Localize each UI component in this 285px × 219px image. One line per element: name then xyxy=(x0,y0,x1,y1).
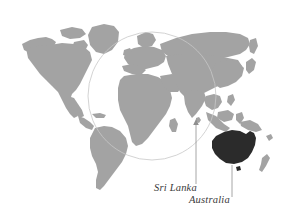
world-map-graphic xyxy=(0,0,285,219)
landmass-south-america xyxy=(90,126,128,190)
landmass-greenland xyxy=(88,24,119,54)
landmass-group xyxy=(22,24,273,190)
callout-label-sri-lanka: Sri Lanka xyxy=(154,182,197,193)
landmass-caribbean xyxy=(92,113,106,118)
landmass-philippines xyxy=(227,94,235,106)
landmass-australia-highlighted xyxy=(212,130,256,164)
landmass-new-guinea xyxy=(240,120,262,132)
landmass-new-zealand xyxy=(259,154,270,172)
world-map-figure: Sri Lanka Australia xyxy=(0,0,285,219)
landmass-pacific-islands xyxy=(266,134,273,141)
landmass-arctic-islands xyxy=(60,27,86,39)
landmass-north-america xyxy=(26,43,92,118)
callout-label-australia: Australia xyxy=(189,194,230,205)
highlight-group xyxy=(212,130,256,171)
landmass-japan xyxy=(246,58,256,74)
landmass-scandinavia xyxy=(137,32,156,48)
landmass-madagascar xyxy=(169,118,178,132)
landmass-india xyxy=(184,90,206,118)
landmass-southeast-asia xyxy=(204,94,222,110)
landmass-tasmania-highlighted xyxy=(236,166,241,171)
landmass-kamchatka xyxy=(249,38,258,54)
landmass-east-asia xyxy=(212,60,244,88)
